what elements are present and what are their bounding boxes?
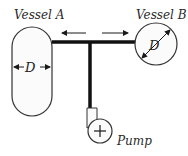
vessel-b-dimension-label: D — [148, 38, 160, 53]
vessel-a-label: Vessel A — [14, 8, 65, 22]
vessel-a-dimension-label: D — [24, 60, 36, 75]
pump-label: Pump — [116, 134, 152, 148]
vessel-b-label: Vessel B — [136, 8, 187, 22]
flow-diagram: Vessel A Vessel B D D Pump — [0, 0, 188, 156]
